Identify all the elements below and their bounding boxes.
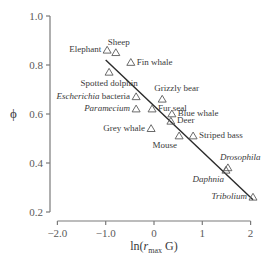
point-label: Grey whale [103,123,145,133]
data-point: Grey whale [103,123,155,133]
y-tick-label: 0.6 [29,108,43,120]
triangle-marker-icon [103,46,111,53]
point-label: Tribolium [211,191,247,201]
y-axis-label: ϕ [10,106,17,121]
triangle-marker-icon [132,93,140,100]
data-point: Paramecium [83,103,140,113]
data-point: Elephant [69,44,111,54]
x-tick-label: 2 [248,227,254,239]
point-label: Elephant [69,44,101,54]
y-tick-label: 0.2 [29,206,43,218]
x-tick-label: 0 [151,227,157,239]
y-tick-label: 0.8 [29,59,43,71]
point-label: Deer [177,115,195,125]
data-point: Escherichia bacteria [55,91,140,101]
point-label: Grizzly bear [154,83,199,93]
data-point: Grizzly bear [154,83,199,102]
data-point: Spotted dolphin [80,68,138,88]
x-axis-label: ln(rmax G) [130,239,177,255]
x-tick-label: −1.0 [96,227,116,239]
triangle-marker-icon [189,132,197,139]
x-axis: −2.0−1.0012 [47,221,253,239]
data-point: Striped bass [189,130,243,140]
y-axis: 0.20.40.60.81.0 [29,10,50,218]
triangle-marker-icon [158,95,166,102]
point-label: Striped bass [199,130,243,140]
point-label: Fin whale [137,57,173,67]
point-label: Drosophila [219,152,261,162]
point-label: Paramecium [83,103,130,113]
triangle-marker-icon [112,49,120,56]
data-points: ElephantSheepFin whaleSpotted dolphinEsc… [55,37,261,202]
scatter-chart: 0.20.40.60.81.0 −2.0−1.0012 ElephantShee… [0,0,270,265]
x-tick-label: −2.0 [47,227,67,239]
triangle-marker-icon [127,59,135,66]
data-point: Fin whale [127,57,173,67]
data-point: Daphnia [191,166,230,184]
triangle-marker-icon [147,125,155,132]
data-point: Deer [167,115,195,125]
point-label: Daphnia [191,174,224,184]
y-tick-label: 1.0 [29,10,43,22]
x-tick-label: 1 [200,227,206,239]
y-tick-label: 0.4 [29,157,43,169]
triangle-marker-icon [132,105,140,112]
point-label: Sheep [108,37,130,47]
triangle-marker-icon [105,68,113,75]
point-label: Mouse [153,140,178,150]
point-label: Escherichia bacteria [55,91,130,101]
point-label: Spotted dolphin [80,78,138,88]
data-point: Mouse [153,132,184,150]
